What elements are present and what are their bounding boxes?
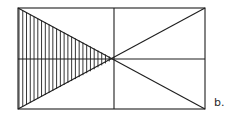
hatched-rectangle-diagram: b. — [0, 0, 234, 117]
figure-label: b. — [214, 96, 224, 109]
diagram-lines — [18, 8, 205, 109]
